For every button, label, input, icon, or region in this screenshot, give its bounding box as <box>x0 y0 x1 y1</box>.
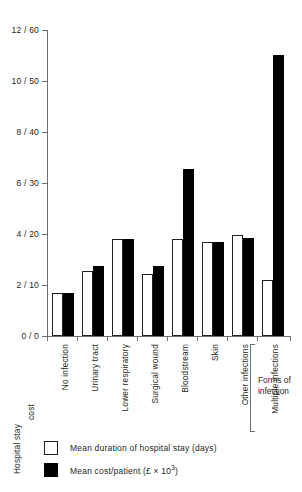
x-axis-group-label-line1: Forms of <box>258 375 291 385</box>
bar-cost-surgical-wound <box>153 266 164 336</box>
bar-stay-bloodstream <box>172 239 183 336</box>
bar-stay-skin <box>202 242 213 336</box>
bar-stay-other-infections <box>232 235 243 336</box>
x-tick-1 <box>77 336 78 341</box>
x-axis-group-label: Forms of infection <box>258 375 302 397</box>
legend-label-cost-tail: ) <box>175 466 178 476</box>
category-label-bloodstream: Bloodstream <box>180 344 190 393</box>
category-label-surgical-wound: Surgical wound <box>150 344 160 404</box>
x-tick-6 <box>227 336 228 341</box>
legend-label-cost-main: Mean cost/patient (£ × 10 <box>70 466 171 476</box>
legend-label-stay: Mean duration of hospital stay (days) <box>70 443 217 453</box>
bar-cost-lower-respiratory <box>123 239 134 336</box>
y-axis-group-label-cost: cost <box>26 404 36 420</box>
y-axis-group-label-stay: Hospital stay <box>12 424 22 474</box>
bar-cost-other-infections <box>243 238 254 336</box>
bar-cost-skin <box>213 242 224 336</box>
bar-stay-surgical-wound <box>142 274 153 336</box>
category-label-skin: Skin <box>210 344 220 361</box>
bars-layer <box>0 0 302 336</box>
x-tick-4 <box>167 336 168 341</box>
plot-area: 12 / 60 10 / 50 8 / 40 6 / 30 4 / 20 2 /… <box>0 0 302 360</box>
legend-entry-cost: Mean cost/patient (£ × 103) <box>44 459 294 481</box>
legend-swatch-black-square <box>44 463 58 477</box>
x-tick-2 <box>107 336 108 341</box>
category-label-other-infections: Other infections <box>240 344 250 405</box>
x-tick-7 <box>257 336 258 341</box>
bar-stay-no-infection <box>52 293 63 336</box>
legend-swatch-white-square <box>44 441 58 455</box>
x-tick-0 <box>47 336 48 341</box>
bar-stay-urinary-tract <box>82 271 93 336</box>
bar-cost-multiple-infections <box>273 55 284 336</box>
legend-entry-stay: Mean duration of hospital stay (days) <box>44 437 294 459</box>
category-label-no-infection: No infection <box>60 344 70 390</box>
bar-stay-multiple-infections <box>262 280 273 336</box>
x-tick-8 <box>290 336 291 341</box>
bar-stay-lower-respiratory <box>112 239 123 336</box>
category-label-urinary-tract: Urinary tract <box>90 344 100 392</box>
bar-cost-urinary-tract <box>93 266 104 336</box>
x-axis-line <box>47 336 290 337</box>
x-tick-5 <box>197 336 198 341</box>
x-axis-group-label-line2: infection <box>258 386 289 396</box>
category-label-lower-respiratory: Lower respiratory <box>120 344 130 412</box>
bar-chart-figure: 12 / 60 10 / 50 8 / 40 6 / 30 4 / 20 2 /… <box>0 0 302 492</box>
x-tick-3 <box>137 336 138 341</box>
bar-cost-bloodstream <box>183 169 194 336</box>
bar-cost-no-infection <box>63 293 74 336</box>
legend-label-cost: Mean cost/patient (£ × 103) <box>70 464 178 476</box>
chart-legend: Mean duration of hospital stay (days) Me… <box>44 437 294 481</box>
forms-of-infection-bracket <box>250 344 255 432</box>
